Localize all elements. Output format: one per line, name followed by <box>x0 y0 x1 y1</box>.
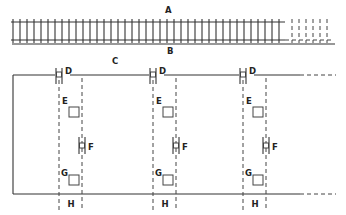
post-f <box>264 143 269 148</box>
unit-3: DEFGH <box>240 66 278 210</box>
box-e <box>163 107 173 117</box>
box-g <box>253 175 263 185</box>
label-f: F <box>272 142 278 152</box>
label-b: B <box>167 46 173 56</box>
label-h: H <box>68 199 75 209</box>
label-e: E <box>246 96 252 106</box>
post-f <box>174 143 179 148</box>
post-f <box>80 143 85 148</box>
box-g <box>69 175 79 185</box>
box-e <box>69 107 79 117</box>
unit-1: DEFGH <box>56 66 94 210</box>
units: DEFGHDEFGHDEFGH <box>56 66 278 210</box>
label-e: E <box>156 96 162 106</box>
box-g <box>163 175 173 185</box>
diagram: A B C DEFGHDEFGHDEFGH <box>0 0 346 215</box>
label-g: G <box>155 168 162 178</box>
label-f: F <box>88 142 94 152</box>
post-d <box>241 72 246 77</box>
post-d <box>57 72 62 77</box>
label-f: F <box>182 142 188 152</box>
label-c: C <box>112 56 118 66</box>
track-a <box>11 19 332 43</box>
label-a: A <box>165 5 172 15</box>
label-e: E <box>62 96 68 106</box>
label-d: D <box>249 66 256 76</box>
label-h: H <box>162 199 169 209</box>
label-g: G <box>245 168 252 178</box>
box-e <box>253 107 263 117</box>
label-g: G <box>61 168 68 178</box>
unit-2: DEFGH <box>150 66 188 210</box>
label-h: H <box>252 199 259 209</box>
post-d <box>151 72 156 77</box>
label-d: D <box>159 66 166 76</box>
label-d: D <box>65 66 72 76</box>
